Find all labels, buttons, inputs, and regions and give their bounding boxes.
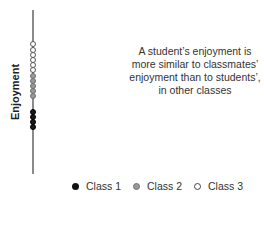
- legend-item-class-1: Class 1: [72, 180, 121, 192]
- legend: Class 1 Class 2 Class 3: [72, 180, 255, 192]
- filled-black-circle-icon: [72, 183, 79, 190]
- legend-label: Class 2: [147, 180, 182, 192]
- legend-label: Class 1: [86, 180, 121, 192]
- filled-gray-circle-icon: [133, 183, 140, 190]
- hollow-circle-icon: [194, 183, 201, 190]
- y-axis-label: Enjoyment: [9, 64, 21, 120]
- legend-item-class-2: Class 2: [133, 180, 182, 192]
- data-point-class-1: [30, 124, 36, 130]
- data-point-class-3: [30, 67, 36, 73]
- legend-item-class-3: Class 3: [194, 180, 243, 192]
- data-point-class-2: [30, 93, 36, 99]
- annotation-text: A student’s enjoyment is more similar to…: [126, 45, 264, 97]
- legend-label: Class 3: [208, 180, 243, 192]
